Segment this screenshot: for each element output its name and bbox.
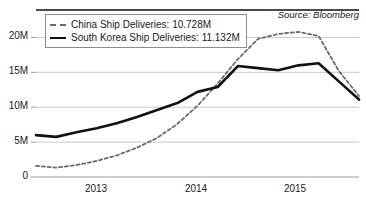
y-axis-tick-label: 10M [0,100,28,111]
legend-item-south-korea[interactable]: South Korea Ship Deliveries: 11.132M [50,31,240,44]
y-axis-tick-label: 0 [0,170,28,181]
legend-label-south-korea: South Korea Ship Deliveries: 11.132M [71,31,240,44]
x-axis-tick-label: 2015 [265,183,325,194]
y-axis-tick-label: 20M [0,30,28,41]
ship-deliveries-chart: China Ship Deliveries: 10.728M South Kor… [0,0,366,205]
dashed-line-swatch-icon [50,20,66,30]
legend-item-china[interactable]: China Ship Deliveries: 10.728M [50,18,240,31]
source-attribution: Source: Bloomberg [278,9,359,20]
solid-line-swatch-icon [50,33,66,43]
x-axis-tick-label: 2014 [166,183,226,194]
y-axis-tick-label: 5M [0,135,28,146]
chart-legend: China Ship Deliveries: 10.728M South Kor… [45,14,247,48]
legend-label-china: China Ship Deliveries: 10.728M [71,18,211,31]
y-axis-tick-label: 15M [0,65,28,76]
x-axis-tick-label: 2013 [66,183,126,194]
